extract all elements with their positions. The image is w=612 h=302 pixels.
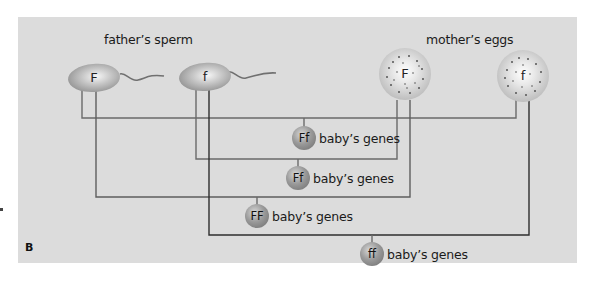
inheritance-lines bbox=[0, 0, 612, 302]
offspring-ff: ff baby’s genes bbox=[360, 242, 468, 266]
father-title: father’s sperm bbox=[104, 32, 193, 47]
sperm-tail-f bbox=[228, 72, 276, 79]
offspring-label: baby’s genes bbox=[387, 247, 468, 262]
offspring-FF: FF baby’s genes bbox=[245, 204, 353, 228]
genotype-ball: ff bbox=[360, 242, 384, 266]
genotype-ball: Ff bbox=[292, 126, 316, 150]
offspring-label: baby’s genes bbox=[272, 209, 353, 224]
offspring-label: baby’s genes bbox=[313, 171, 394, 186]
sperm-allele: F bbox=[68, 64, 120, 92]
line-F-sperm-to-f-egg bbox=[82, 83, 516, 118]
genotype-ball: Ff bbox=[286, 166, 310, 190]
egg-F: F bbox=[379, 48, 431, 100]
offspring-label: baby’s genes bbox=[319, 131, 400, 146]
egg-allele: F bbox=[379, 48, 431, 100]
sperm-tail-F bbox=[120, 74, 164, 81]
egg-f: f bbox=[497, 50, 549, 102]
offspring-Ff-1: Ff baby’s genes bbox=[292, 126, 400, 150]
sperm-allele: f bbox=[179, 63, 231, 91]
offspring-Ff-2: Ff baby’s genes bbox=[286, 166, 394, 190]
mother-title: mother’s eggs bbox=[426, 32, 513, 47]
panel-label: B bbox=[25, 241, 33, 254]
egg-allele: f bbox=[497, 50, 549, 102]
stray-mark bbox=[0, 208, 3, 211]
genotype-ball: FF bbox=[245, 204, 269, 228]
